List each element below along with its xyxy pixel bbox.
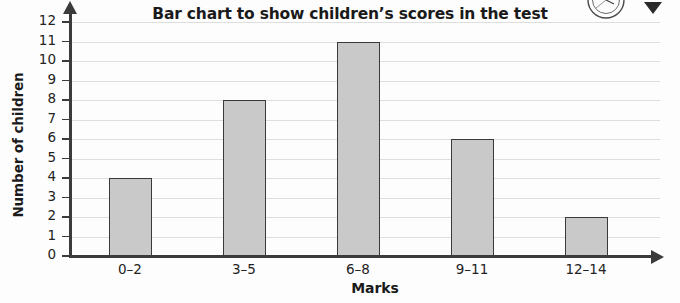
bar <box>337 42 380 257</box>
y-tick-label: 2 <box>26 209 56 223</box>
x-axis-title: Marks <box>275 280 475 296</box>
x-tick-label: 9–11 <box>432 261 512 277</box>
bar <box>109 178 152 256</box>
bar <box>565 217 608 256</box>
bar-chart-figure: 0123456789101112 0–23–56–89–1112–14 Bar … <box>0 0 680 303</box>
y-tick-label: 3 <box>26 190 56 204</box>
x-tick-label: 0–2 <box>90 261 170 277</box>
y-tick-label: 10 <box>26 53 56 67</box>
x-tick-label: 12–14 <box>546 261 626 277</box>
x-axis-arrow-icon <box>651 250 664 264</box>
bar <box>223 100 266 256</box>
y-tick-label: 5 <box>26 151 56 165</box>
x-axis-line <box>69 255 653 258</box>
y-tick-label: 0 <box>26 248 56 262</box>
y-axis-title: Number of children <box>10 60 26 230</box>
y-tick-label: 9 <box>26 73 56 87</box>
y-tick-label: 4 <box>26 170 56 184</box>
y-tick-label: 1 <box>26 229 56 243</box>
y-tick-label: 6 <box>26 131 56 145</box>
y-axis-arrow-icon <box>63 1 77 14</box>
clock-icon <box>584 0 628 22</box>
y-tick-label: 7 <box>26 112 56 126</box>
x-tick-label: 6–8 <box>318 261 398 277</box>
arrow-down-icon <box>644 2 662 14</box>
y-tick-label: 8 <box>26 92 56 106</box>
bar <box>451 139 494 256</box>
plot-area: 0123456789101112 0–23–56–89–1112–14 <box>0 0 680 303</box>
chart-title: Bar chart to show children’s scores in t… <box>150 5 550 23</box>
y-tick-label: 12 <box>26 14 56 28</box>
y-axis-line <box>69 10 72 257</box>
x-tick-label: 3–5 <box>204 261 284 277</box>
y-tick-label: 11 <box>26 34 56 48</box>
